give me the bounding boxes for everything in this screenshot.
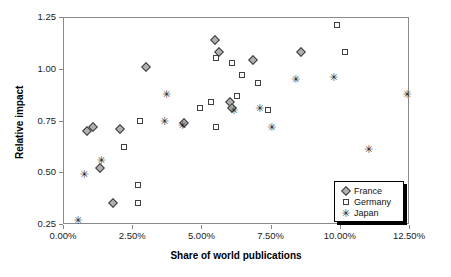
x-tick-mark [63,225,64,229]
x-tick-label: 10.00% [310,230,370,241]
y-tick-mark [59,121,63,122]
x-tick-mark [340,225,341,229]
x-tick-label: 2.50% [102,230,162,241]
x-tick-label: 12.50% [379,230,439,241]
legend-diamond-icon [339,185,352,196]
legend-item-japan: ✳Japan [339,207,397,218]
legend-item-france: France [339,185,397,196]
x-tick-mark [132,225,133,229]
square-marker-icon [343,199,349,205]
x-tick-label: 7.50% [241,230,301,241]
y-tick-mark [59,172,63,173]
x-tick-label: 0.00% [33,230,93,241]
y-tick-label: 1.25 [38,11,57,22]
x-axis-title: Share of world publications [166,250,306,261]
y-tick-mark [59,17,63,18]
chart-legend: FranceGermany✳Japan [334,181,404,222]
legend-label: Japan [354,208,379,218]
y-axis-title: Relative impact [14,85,25,158]
y-tick-label: 1.00 [38,63,57,74]
diamond-marker-icon [341,186,351,196]
star-marker-icon: ✳ [340,207,351,218]
x-tick-mark [409,225,410,229]
x-tick-mark [271,225,272,229]
x-tick-mark [201,225,202,229]
legend-label: Germany [354,197,391,207]
legend-label: France [354,186,382,196]
legend-star-icon: ✳ [339,207,352,218]
legend-square-icon [339,196,352,207]
y-tick-mark [59,69,63,70]
y-tick-label: 0.50 [38,166,57,177]
scatter-chart: 0.250.500.751.001.25 0.00%2.50%5.00%7.50… [0,0,451,277]
legend-item-germany: Germany [339,196,397,207]
x-tick-label: 5.00% [171,230,231,241]
y-tick-label: 0.25 [38,218,57,229]
y-tick-label: 0.75 [38,115,57,126]
